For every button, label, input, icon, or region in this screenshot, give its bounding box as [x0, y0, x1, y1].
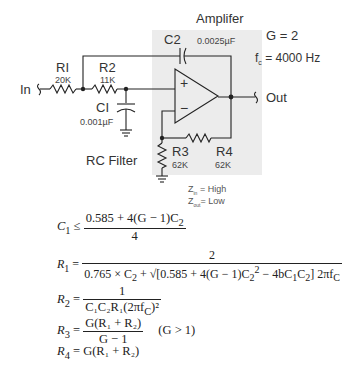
r2-name: R2: [99, 60, 116, 75]
c2-name: C2: [164, 32, 181, 47]
r3-name: R3: [172, 144, 189, 159]
equation-r2: R2 = 1C₁C₂R₁(2πfC)²: [57, 284, 161, 317]
amplifier-label: Amplifer: [196, 11, 244, 26]
r1-value: 20K: [55, 75, 71, 85]
equation-r1: R1 = 20.765 × C2 + √[0.585 + 4(G − 1)C22…: [57, 248, 342, 283]
c1-name: CI: [96, 100, 109, 115]
r3-value: 62K: [172, 160, 188, 170]
equation-r4: R4 = G(R₁ + R₂): [57, 344, 139, 361]
rc-filter-label: RC Filter: [86, 153, 137, 168]
r4-name: R4: [216, 144, 233, 159]
input-label: In: [20, 82, 31, 97]
cutoff-frequency: fc = 4000 Hz: [255, 51, 320, 66]
output-impedance: Zout= Low: [188, 196, 225, 208]
r1-name: RI: [56, 60, 69, 75]
output-label: Out: [266, 90, 287, 105]
c2-value: 0.0025µF: [197, 36, 235, 46]
r2-resistor-icon: [92, 85, 117, 93]
opamp-plus: +: [180, 75, 188, 91]
c1-value: 0.001µF: [80, 117, 113, 127]
input-impedance: Zin = High: [188, 184, 226, 196]
gain-value: G = 2: [266, 28, 298, 43]
opamp-minus: −: [180, 100, 188, 116]
equation-c1: C1 ≤ 0.585 + 4(G − 1)C24: [57, 211, 186, 244]
r4-value: 62K: [215, 160, 231, 170]
equation-r3: R3 = G(R₁ + R₂)G − 1 (G > 1): [57, 316, 195, 347]
r1-resistor-icon: [50, 85, 76, 93]
r2-value: 11K: [100, 75, 115, 85]
